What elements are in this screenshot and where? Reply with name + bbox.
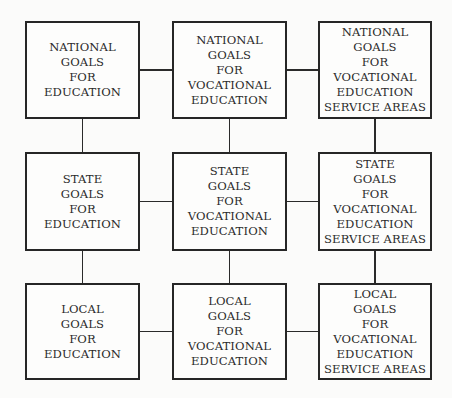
goal-box-label-line: NATIONAL xyxy=(44,40,121,55)
goal-box-label-line: GOALS xyxy=(44,187,121,202)
goal-box-label-line: LOCAL xyxy=(44,302,121,317)
goal-box-label-line: FOR xyxy=(188,324,271,339)
goal-box-label-line: SERVICE AREAS xyxy=(324,100,426,115)
goal-box-national-education: NATIONALGOALSFOREDUCATION xyxy=(25,21,140,119)
connector-education-national-to-state xyxy=(82,119,84,152)
goal-box-label-line: STATE xyxy=(324,157,426,172)
goal-box-label-line: GOALS xyxy=(324,172,426,187)
goal-box-label: STATEGOALSFORVOCATIONALEDUCATION xyxy=(188,164,271,239)
goal-box-local-vocational-education: LOCALGOALSFORVOCATIONALEDUCATION xyxy=(172,283,287,380)
goal-box-label-line: VOCATIONAL xyxy=(188,209,271,224)
goal-box-label-line: GOALS xyxy=(324,40,426,55)
goal-box-local-education: LOCALGOALSFOREDUCATION xyxy=(25,283,140,380)
goal-box-state-vocational-education: STATEGOALSFORVOCATIONALEDUCATION xyxy=(172,152,287,251)
goal-box-label-line: EDUCATION xyxy=(324,347,426,362)
goal-box-label: NATIONALGOALSFORVOCATIONALEDUCATIONSERVI… xyxy=(324,25,426,115)
goal-box-label-line: EDUCATION xyxy=(188,93,271,108)
goal-box-label: STATEGOALSFOREDUCATION xyxy=(44,172,121,232)
connector-vocational-education-service-areas-national-to-state xyxy=(374,119,376,152)
goal-box-label: STATEGOALSFORVOCATIONALEDUCATIONSERVICE … xyxy=(324,157,426,247)
goal-box-label-line: GOALS xyxy=(188,179,271,194)
connector-state-education-to-vocational-education xyxy=(140,201,172,203)
goal-box-label-line: LOCAL xyxy=(324,287,426,302)
goal-box-label-line: GOALS xyxy=(188,309,271,324)
connector-state-vocational-education-to-vocational-education-service-areas xyxy=(287,201,318,203)
goal-box-label-line: VOCATIONAL xyxy=(188,339,271,354)
goal-box-label: LOCALGOALSFORVOCATIONALEDUCATION xyxy=(188,294,271,369)
goal-box-label-line: EDUCATION xyxy=(324,85,426,100)
goal-box-label-line: FOR xyxy=(324,55,426,70)
goal-box-label-line: FOR xyxy=(44,202,121,217)
goal-box-label-line: EDUCATION xyxy=(188,354,271,369)
goal-box-label-line: FOR xyxy=(44,70,121,85)
goal-box-label-line: GOALS xyxy=(44,55,121,70)
connector-vocational-education-state-to-local xyxy=(229,251,231,283)
goal-box-national-vocational-education: NATIONALGOALSFORVOCATIONALEDUCATION xyxy=(172,21,287,119)
connector-local-vocational-education-to-vocational-education-service-areas xyxy=(287,331,318,333)
goal-box-label-line: SERVICE AREAS xyxy=(324,232,426,247)
goal-box-label-line: EDUCATION xyxy=(44,347,121,362)
goal-box-label-line: EDUCATION xyxy=(44,85,121,100)
goal-box-label-line: STATE xyxy=(188,164,271,179)
goal-box-label-line: GOALS xyxy=(44,317,121,332)
goals-hierarchy-diagram: NATIONALGOALSFOREDUCATIONNATIONALGOALSFO… xyxy=(0,0,452,398)
goal-box-label-line: EDUCATION xyxy=(188,224,271,239)
goal-box-label-line: VOCATIONAL xyxy=(324,70,426,85)
goal-box-label: NATIONALGOALSFOREDUCATION xyxy=(44,40,121,100)
goal-box-label: LOCALGOALSFORVOCATIONALEDUCATIONSERVICE … xyxy=(324,287,426,377)
connector-vocational-education-service-areas-state-to-local xyxy=(374,251,376,283)
goal-box-label-line: SERVICE AREAS xyxy=(324,362,426,377)
goal-box-label-line: FOR xyxy=(44,332,121,347)
goal-box-label-line: GOALS xyxy=(324,302,426,317)
goal-box-label-line: VOCATIONAL xyxy=(324,202,426,217)
goal-box-state-education: STATEGOALSFOREDUCATION xyxy=(25,152,140,251)
connector-local-education-to-vocational-education xyxy=(140,331,172,333)
goal-box-label-line: FOR xyxy=(324,317,426,332)
goal-box-label: LOCALGOALSFOREDUCATION xyxy=(44,302,121,362)
goal-box-label-line: NATIONAL xyxy=(188,33,271,48)
goal-box-label-line: STATE xyxy=(44,172,121,187)
connector-vocational-education-national-to-state xyxy=(229,119,231,152)
connector-national-vocational-education-to-vocational-education-service-areas xyxy=(287,69,318,71)
goal-box-label-line: FOR xyxy=(188,63,271,78)
goal-box-label-line: NATIONAL xyxy=(324,25,426,40)
goal-box-label: NATIONALGOALSFORVOCATIONALEDUCATION xyxy=(188,33,271,108)
connector-national-education-to-vocational-education xyxy=(140,69,172,71)
goal-box-label-line: EDUCATION xyxy=(324,217,426,232)
goal-box-label-line: VOCATIONAL xyxy=(324,332,426,347)
goal-box-label-line: VOCATIONAL xyxy=(188,78,271,93)
goal-box-national-vocational-service-areas: NATIONALGOALSFORVOCATIONALEDUCATIONSERVI… xyxy=(318,21,432,119)
goal-box-label-line: FOR xyxy=(324,187,426,202)
goal-box-label-line: FOR xyxy=(188,194,271,209)
goal-box-local-vocational-service-areas: LOCALGOALSFORVOCATIONALEDUCATIONSERVICE … xyxy=(318,283,432,380)
goal-box-label-line: GOALS xyxy=(188,48,271,63)
goal-box-state-vocational-service-areas: STATEGOALSFORVOCATIONALEDUCATIONSERVICE … xyxy=(318,152,432,251)
goal-box-label-line: EDUCATION xyxy=(44,217,121,232)
goal-box-label-line: LOCAL xyxy=(188,294,271,309)
connector-education-state-to-local xyxy=(82,251,84,283)
